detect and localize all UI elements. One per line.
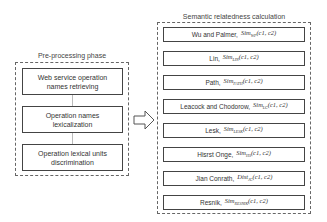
measure-name: Hisrst Onge, bbox=[197, 151, 233, 159]
step-2-line-1: Operation names bbox=[46, 112, 100, 119]
measure-path: Path,SimPATH(c1, c2) bbox=[163, 75, 305, 90]
measure-name: Leacock and Chodorow, bbox=[180, 103, 250, 111]
step-lexicalization: Operation nameslexicalization bbox=[22, 106, 123, 133]
step-2-line-2: lexicalization bbox=[53, 121, 93, 128]
measure-jiang-conrath: Jian Conrath,DistJC(c1, c2) bbox=[163, 171, 305, 186]
measure-leacock-chodorow: Leacock and Chodorow,SimLC(c1, c2) bbox=[163, 99, 305, 114]
measure-formula: SimRESNIK(c1, c2) bbox=[225, 197, 268, 208]
hollow-right-arrow-icon bbox=[133, 110, 155, 130]
measure-lin: Lin,SimLIN(c1, c2) bbox=[163, 51, 305, 66]
measure-formula: SimPATH(c1, c2) bbox=[224, 77, 263, 88]
step-3-line-2: discrimination bbox=[51, 159, 94, 166]
measure-name: Jian Conrath, bbox=[196, 175, 235, 183]
step-1-line-2: names retrieving bbox=[47, 83, 99, 90]
measure-name: Resnik, bbox=[200, 199, 222, 207]
measure-formula: SimLIN(c1, c2) bbox=[223, 53, 259, 64]
measure-name: Lesk, bbox=[205, 127, 221, 135]
connector-line bbox=[72, 95, 73, 106]
measure-name: Lin, bbox=[209, 55, 219, 63]
measure-lesk: Lesk,SimLESK(c1, c2) bbox=[163, 123, 305, 138]
measure-formula: SimHS(c1, c2) bbox=[236, 149, 271, 160]
measure-name: Path, bbox=[205, 79, 220, 87]
step-web-service-retrieving: Web service operationnames retrieving bbox=[22, 68, 123, 95]
measure-formula: DistJC(c1, c2) bbox=[237, 173, 272, 184]
connector-line bbox=[72, 133, 73, 144]
step-discrimination: Operation lexical unitsdiscrimination bbox=[22, 144, 123, 171]
measure-wu-palmer: Wu and Palmer,SimWP(c1, c2) bbox=[163, 27, 305, 42]
semantic-relatedness-title: Semantic relatedness calculation bbox=[157, 13, 311, 20]
step-3-line-1: Operation lexical units bbox=[38, 150, 107, 157]
step-1-line-1: Web service operation bbox=[38, 74, 108, 81]
measure-formula: SimLC(c1, c2) bbox=[253, 101, 288, 112]
preprocessing-title: Pre-processing phase bbox=[15, 52, 129, 59]
measure-hirst-onge: Hisrst Onge,SimHS(c1, c2) bbox=[163, 147, 305, 162]
measure-resnik: Resnik,SimRESNIK(c1, c2) bbox=[163, 195, 305, 210]
measure-formula: SimWP(c1, c2) bbox=[241, 29, 276, 40]
measure-name: Wu and Palmer, bbox=[192, 31, 238, 39]
measure-formula: SimLESK(c1, c2) bbox=[224, 125, 263, 136]
